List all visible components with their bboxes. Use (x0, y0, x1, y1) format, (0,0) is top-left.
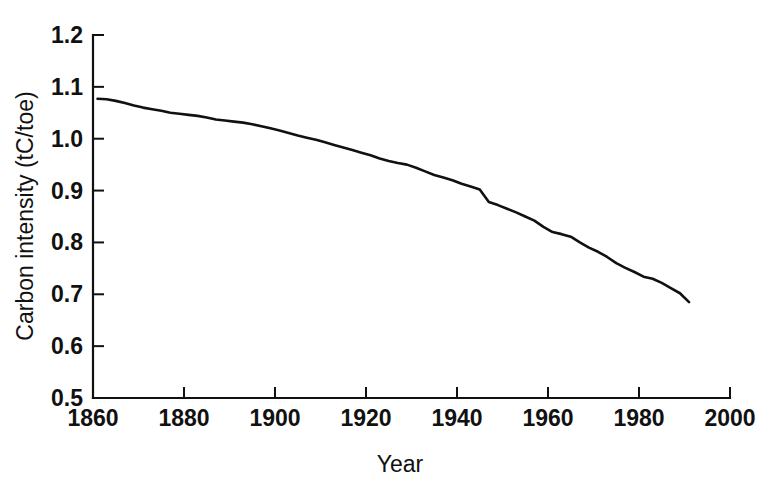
y-tick-label: 0.8 (51, 229, 83, 255)
y-tick-label: 1.2 (51, 22, 83, 48)
y-tick-label: 0.6 (51, 333, 83, 359)
y-tick-label: 0.9 (51, 178, 83, 204)
x-tick-label: 1920 (340, 405, 391, 431)
y-tick-label: 1.0 (51, 126, 83, 152)
y-tick-label: 1.1 (51, 74, 83, 100)
x-tick-label: 1860 (67, 405, 118, 431)
x-tick-label: 1900 (249, 405, 300, 431)
x-tick-label: 2000 (704, 405, 755, 431)
carbon-intensity-line-chart: 0.50.60.70.80.91.01.11.2 186018801900192… (0, 0, 770, 487)
y-tick-label: 0.7 (51, 281, 83, 307)
x-tick-label: 1940 (431, 405, 482, 431)
x-tick-label: 1960 (522, 405, 573, 431)
y-axis-title: Carbon intensity (tC/toe) (12, 91, 38, 340)
x-tick-label: 1980 (613, 405, 664, 431)
x-axis-title: Year (377, 451, 424, 477)
x-tick-label: 1880 (158, 405, 209, 431)
figure-container: 0.50.60.70.80.91.01.11.2 186018801900192… (0, 0, 770, 487)
